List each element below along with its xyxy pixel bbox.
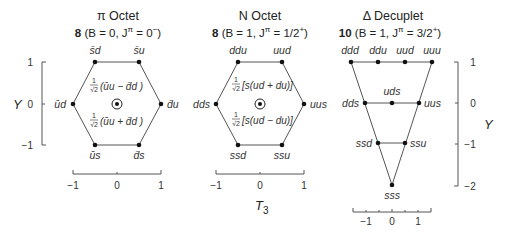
pi-center-lower-state: 1 √2 (ūu + d̄d ) (90, 112, 143, 128)
vertex-dot (236, 143, 241, 148)
vertex-dot (403, 60, 408, 65)
pi-label-dbar-u: d̄u (167, 98, 179, 110)
dec-label-ddd: ddd (341, 44, 360, 56)
right-y-axis-label: Y (484, 117, 494, 132)
svg-text:(ūu − d̄d ): (ūu − d̄d ) (100, 81, 143, 92)
svg-text:1: 1 (415, 216, 421, 227)
pi-center-upper-state: 1 √2 (ūu − d̄d ) (90, 77, 143, 93)
pi-label-ubar-s: ūs (89, 149, 101, 161)
svg-text:1: 1 (234, 76, 238, 83)
left-y-axis: 1 0 −1 Y (13, 57, 46, 151)
left-y-axis-label: Y (13, 97, 23, 112)
svg-text:√2: √2 (90, 86, 98, 93)
n-x-axis: −1 0 1 T3 (210, 170, 307, 216)
dec-label-ddu: ddu (369, 44, 387, 56)
svg-text:(ūu + d̄d ): (ūu + d̄d ) (100, 116, 143, 127)
n-label-dds: dds (193, 98, 211, 110)
vertex-dot (376, 60, 381, 65)
svg-text:√2: √2 (232, 120, 240, 127)
n-label-ddu: ddu (229, 44, 247, 56)
decuplet-x-axis: −1 0 1 (353, 208, 431, 227)
svg-text:−2: −2 (464, 181, 476, 192)
vertex-dot (93, 60, 98, 65)
svg-text:√2: √2 (232, 85, 240, 92)
vertex-dot (430, 60, 435, 65)
svg-text:[s(ud + du)]: [s(ud + du)] (241, 80, 293, 91)
dec-label-sss: sss (384, 189, 401, 201)
svg-text:−1: −1 (22, 140, 34, 151)
dec-label-uuu: uuu (423, 44, 441, 56)
n-label-ssd: ssd (230, 149, 248, 161)
decuplet-title: Δ Decuplet (363, 9, 424, 23)
vertex-dot (403, 141, 408, 146)
svg-text:1: 1 (301, 180, 307, 191)
svg-text:√2: √2 (90, 121, 98, 128)
pi-label-sbar-u: s̄u (133, 44, 144, 56)
delta-decuplet-panel: Δ Decuplet 10 (B = 1, Jπ = 3/2+) ddd ddu… (339, 9, 442, 227)
pi-x-axis: −1 0 1 (67, 170, 164, 191)
dec-label-uud: uud (396, 44, 415, 56)
right-y-axis: 1 0 −1 −2 Y (454, 57, 494, 192)
svg-text:1: 1 (92, 77, 96, 84)
svg-text:−1: −1 (67, 180, 79, 191)
decuplet-subtitle: 10 (B = 1, Jπ = 3/2+) (339, 25, 441, 39)
vertex-dot (390, 183, 395, 188)
dec-label-uds: uds (384, 85, 402, 97)
center-dot (115, 102, 119, 106)
vertex-dot (280, 60, 285, 65)
svg-text:1: 1 (92, 112, 96, 119)
vertex-dot (349, 60, 354, 65)
n-label-uus: uus (310, 98, 328, 110)
n-octet-panel: N Octet 8 (B = 1, Jπ = 1/2+) ddu uud dds… (193, 9, 328, 216)
su3-multiplet-diagram: π Octet 8 (B = 0, Jπ = 0−) s̄d s̄u ūd d̄… (0, 0, 507, 238)
pi-octet-subtitle: 8 (B = 0, Jπ = 0−) (75, 25, 161, 39)
n-label-uud: uud (273, 44, 292, 56)
svg-text:1: 1 (158, 180, 164, 191)
svg-text:0: 0 (27, 99, 33, 110)
svg-text:0: 0 (389, 216, 395, 227)
x-axis-label-t3: T3 (255, 198, 269, 216)
svg-text:−1: −1 (464, 139, 476, 150)
dec-label-dds: dds (342, 97, 360, 109)
pi-label-sbar-d: s̄d (89, 44, 101, 56)
vertex-dot (71, 102, 76, 107)
n-octet-title: N Octet (239, 9, 282, 23)
vertex-dot (137, 60, 142, 65)
pi-label-ubar-d: ūd (54, 98, 67, 110)
vertex-dot (159, 102, 164, 107)
dec-label-uus: uus (424, 97, 442, 109)
vertex-dot (280, 143, 285, 148)
vertex-dot (137, 143, 142, 148)
svg-text:0: 0 (470, 98, 476, 109)
svg-text:1: 1 (27, 57, 33, 68)
vertex-dot (214, 102, 219, 107)
svg-text:−1: −1 (210, 180, 222, 191)
n-center-lower-state: 1 √2 [s(ud − du)] (232, 111, 293, 127)
svg-text:[s(ud − du)]: [s(ud − du)] (241, 115, 293, 126)
vertex-dot (236, 60, 241, 65)
svg-text:1: 1 (234, 111, 238, 118)
vertex-dot (93, 143, 98, 148)
dec-label-ssu: ssu (410, 137, 427, 149)
n-center-upper-state: 1 √2 [s(ud + du)] (232, 76, 293, 92)
vertex-dot (376, 141, 381, 146)
pi-label-dbar-s: d̄s (133, 149, 145, 161)
vertex-dot (417, 101, 422, 106)
pi-octet-title: π Octet (97, 9, 139, 23)
svg-text:0: 0 (114, 180, 120, 191)
n-octet-subtitle: 8 (B = 1, Jπ = 1/2+) (212, 25, 308, 39)
svg-text:−1: −1 (360, 216, 372, 227)
dec-label-ssd: ssd (356, 137, 374, 149)
vertex-dot (363, 101, 368, 106)
svg-text:0: 0 (257, 180, 263, 191)
vertex-dot (302, 102, 307, 107)
center-dot (258, 102, 262, 106)
pi-octet-panel: π Octet 8 (B = 0, Jπ = 0−) s̄d s̄u ūd d̄… (54, 9, 179, 191)
decuplet-triangle (351, 62, 432, 185)
svg-text:1: 1 (470, 57, 476, 68)
vertex-dot (390, 101, 395, 106)
n-label-ssu: ssu (274, 149, 291, 161)
